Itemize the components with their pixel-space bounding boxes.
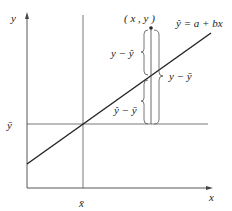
- y-mean-label: ȳ: [6, 119, 13, 131]
- y-axis-label: y: [10, 12, 16, 24]
- brace-residual: [141, 30, 148, 75]
- x-mean-label: x̄: [78, 197, 84, 209]
- brace-total: [154, 30, 163, 124]
- y-axis-arrow-icon: [25, 12, 29, 19]
- explained-label: ŷ − ȳ: [113, 104, 138, 116]
- residual-label: y − ŷ: [110, 47, 134, 59]
- point-label: ( x , y ): [124, 12, 155, 25]
- x-axis-label: x: [208, 191, 214, 203]
- regression-diagram: y x ȳ x̄ ( x , y ) ŷ = a + bx y − ŷ y − …: [0, 0, 232, 211]
- regression-line-label: ŷ = a + bx: [175, 17, 223, 29]
- brace-explained: [141, 80, 148, 124]
- x-axis-arrow-icon: [206, 186, 213, 190]
- total-deviation-label: y − ȳ: [168, 70, 193, 82]
